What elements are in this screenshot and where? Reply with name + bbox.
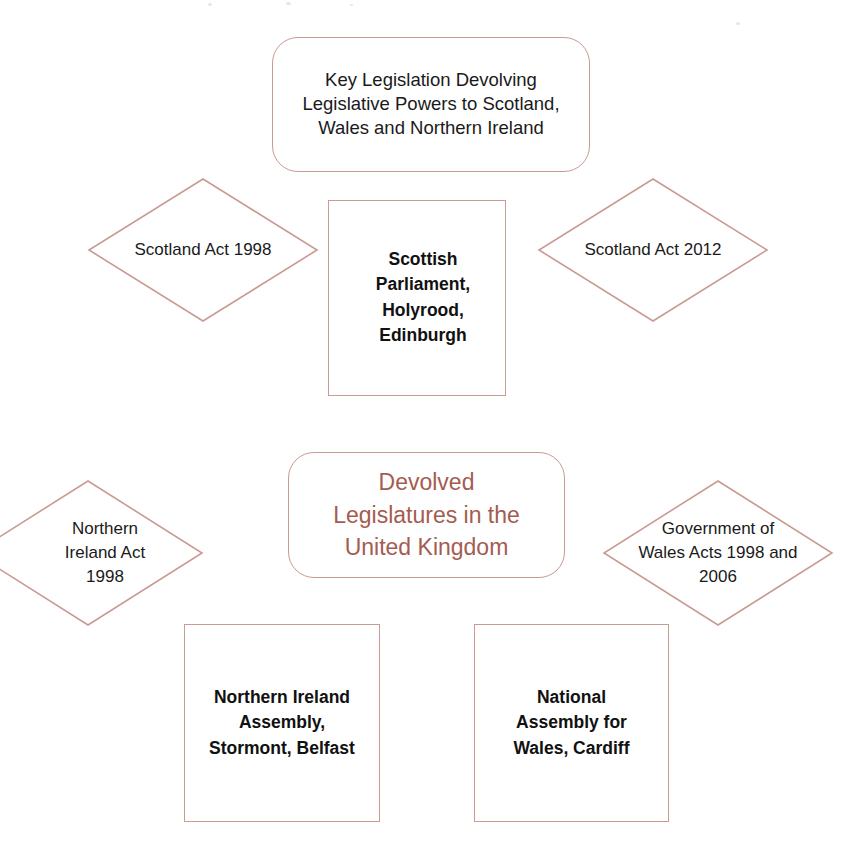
devolution-diagram: Key Legislation Devolving Legislative Po… (0, 0, 851, 860)
box-national-assembly-for-wales: National Assembly for Wales, Cardiff (474, 624, 669, 822)
box-label: Scottish Parliament, Holyrood, Edinburgh (335, 247, 511, 349)
diamond-government-of-wales-acts: Government of Wales Acts 1998 and 2006 (603, 480, 833, 626)
scan-speckle (286, 2, 291, 5)
diamond-shape (88, 178, 318, 322)
box-scottish-parliament: Scottish Parliament, Holyrood, Edinburgh (328, 200, 506, 396)
diamond-northern-ireland-act-1998: Northern Ireland Act 1998 (0, 480, 203, 626)
diamond-scotland-act-1998: Scotland Act 1998 (88, 178, 318, 322)
diamond-shape (538, 178, 768, 322)
title-box-label: Devolved Legislatures in the United King… (289, 466, 564, 564)
diamond-shape (0, 480, 203, 626)
box-northern-ireland-assembly: Northern Ireland Assembly, Stormont, Bel… (184, 624, 380, 822)
scan-speckle (350, 4, 353, 6)
header-box-label: Key Legislation Devolving Legislative Po… (273, 68, 589, 141)
diamond-shape (603, 480, 833, 626)
diamond-scotland-act-2012: Scotland Act 2012 (538, 178, 768, 322)
header-box: Key Legislation Devolving Legislative Po… (272, 37, 590, 172)
box-label: Northern Ireland Assembly, Stormont, Bel… (185, 685, 379, 761)
title-box: Devolved Legislatures in the United King… (288, 452, 565, 578)
scan-speckle (736, 22, 740, 25)
box-label: National Assembly for Wales, Cardiff (475, 685, 668, 761)
scan-speckle (208, 3, 212, 6)
